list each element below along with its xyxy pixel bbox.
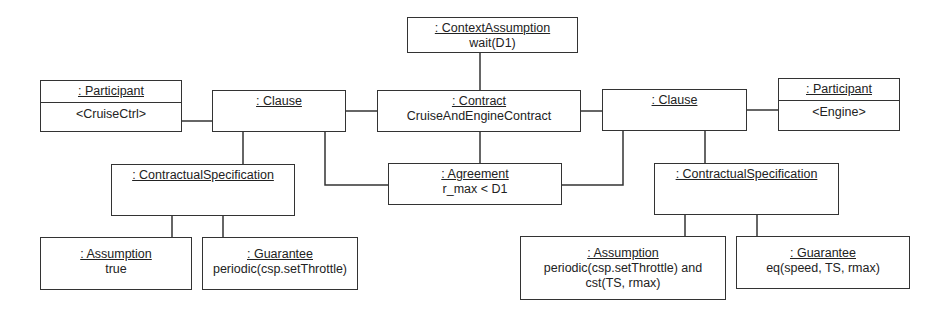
clause-left-node: : Clause [212,90,346,132]
node-title: : Agreement [389,164,561,182]
node-value: wait(D1) [408,36,577,51]
node-title: : Clause [603,90,746,108]
assumption-left-node: : Assumption true [40,237,192,290]
node-title: : Participant [41,81,181,103]
contractual-spec-right-node: : ContractualSpecification [654,163,839,215]
node-title: : ContractualSpecification [112,165,294,183]
guarantee-left-node: : Guarantee periodic(csp.setThrottle) [202,237,358,290]
node-title: : ContextAssumption [408,18,577,36]
context-assumption-node: : ContextAssumption wait(D1) [407,17,578,53]
node-title: : Guarantee [737,237,909,261]
node-title: : Participant [779,79,899,101]
assumption-right-node: : Assumption periodic(csp.setThrottle) a… [520,236,726,300]
node-value: eq(speed, TS, rmax) [737,261,909,276]
node-value-line1: periodic(csp.setThrottle) and [521,261,725,276]
guarantee-right-node: : Guarantee eq(speed, TS, rmax) [736,236,910,289]
participant-right-node: : Participant <Engine> [778,78,900,131]
agreement-node: : Agreement r_max < D1 [388,163,562,205]
clause-right-node: : Clause [602,89,747,131]
edge-clause-left-agreement [325,132,388,185]
node-title: : Clause [213,91,345,109]
contract-node: : Contract CruiseAndEngineContract [377,90,581,132]
node-value: <CruiseCtrl> [41,103,181,122]
node-title: : Assumption [521,237,725,261]
node-title: : Guarantee [203,238,357,262]
node-value: true [41,262,191,277]
node-value: r_max < D1 [389,182,561,197]
node-value: CruiseAndEngineContract [378,109,580,124]
contractual-spec-left-node: : ContractualSpecification [111,164,295,216]
node-value-line2: cst(TS, rmax) [521,276,725,291]
edge-clause-right-agreement [561,131,623,185]
node-title: : Assumption [41,238,191,262]
node-value: <Engine> [779,101,899,120]
node-value: periodic(csp.setThrottle) [203,262,357,277]
node-title: : ContractualSpecification [655,164,838,182]
node-title: : Contract [378,91,580,109]
participant-left-node: : Participant <CruiseCtrl> [40,80,182,132]
